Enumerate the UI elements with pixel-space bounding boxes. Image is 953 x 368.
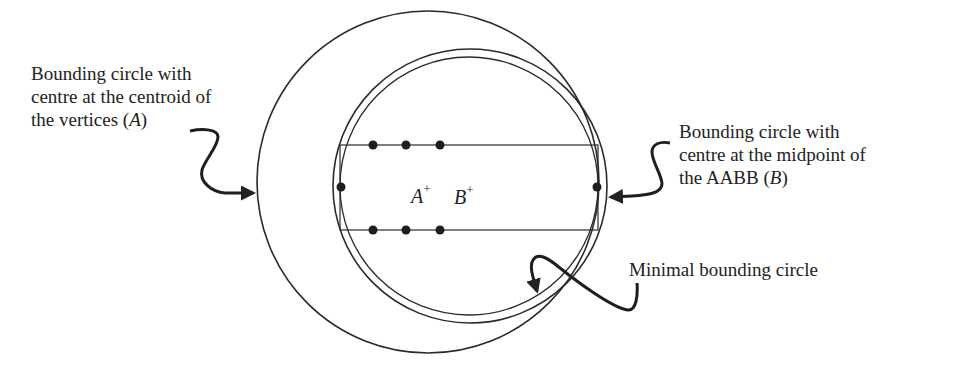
label-line: centre at the midpoint of — [679, 143, 866, 166]
point-name: A — [411, 185, 423, 207]
vertex-point — [436, 226, 445, 235]
vertex-point — [402, 141, 411, 150]
vertex-point — [402, 226, 411, 235]
label-text: the AABB ( — [679, 167, 770, 188]
label-text: the vertices ( — [31, 109, 129, 130]
label-aabb-midpoint-circle: Bounding circle with centre at the midpo… — [679, 120, 866, 189]
label-line: Bounding circle with — [679, 120, 866, 143]
leader-arrow-aabb-midpoint — [611, 142, 670, 197]
label-line: Bounding circle with — [31, 62, 211, 85]
point-mark: + — [423, 181, 430, 196]
label-text: ) — [141, 109, 147, 130]
leader-arrow-minimal — [531, 256, 637, 310]
label-text: ) — [781, 167, 787, 188]
label-var: B — [770, 167, 782, 188]
leader-arrow-centroid — [190, 130, 253, 193]
centre-point-a: A+ — [411, 183, 431, 208]
label-centroid-circle: Bounding circle with centre at the centr… — [31, 62, 211, 131]
vertex-point — [369, 141, 378, 150]
label-line: the AABB (B) — [679, 166, 866, 189]
vertex-point — [436, 141, 445, 150]
vertex-point — [593, 183, 602, 192]
label-line: centre at the centroid of — [31, 85, 211, 108]
centre-point-b: B+ — [454, 184, 474, 209]
label-minimal-circle: Minimal bounding circle — [629, 258, 818, 281]
point-mark: + — [466, 182, 473, 197]
vertex-point — [369, 226, 378, 235]
label-line: the vertices (A) — [31, 108, 211, 131]
vertex-point — [337, 183, 346, 192]
point-name: B — [454, 186, 466, 208]
label-var: A — [129, 109, 141, 130]
